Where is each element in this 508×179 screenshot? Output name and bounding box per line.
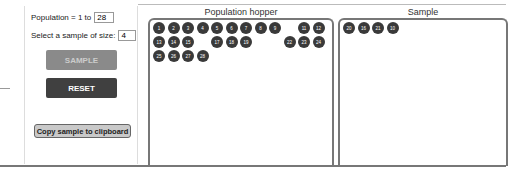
sample-balls: 20162110 [343, 22, 399, 34]
ball: 6 [226, 22, 238, 34]
ball: 22 [284, 36, 296, 48]
sample-size-label: Select a sample of size: [31, 31, 115, 40]
population-hopper: 123456789111213141517181922232425262728 [148, 18, 334, 166]
ball: 2 [168, 22, 180, 34]
sample-button[interactable]: SAMPLE [46, 50, 117, 70]
ball: 15 [182, 36, 194, 48]
ball: 25 [153, 50, 165, 62]
divider [0, 165, 506, 167]
sample-size-input[interactable] [118, 30, 136, 41]
ball: 17 [211, 36, 223, 48]
population-row: Population = 1 to [31, 12, 114, 23]
ball: 26 [168, 50, 180, 62]
ball: 16 [358, 22, 370, 34]
hopper-title: Population hopper [148, 7, 334, 17]
controls-panel: Population = 1 to Select a sample of siz… [24, 6, 138, 164]
sample-area: 20162110 [338, 18, 508, 166]
ball: 24 [313, 36, 325, 48]
ball: 20 [343, 22, 355, 34]
ball: 18 [226, 36, 238, 48]
divider [138, 4, 506, 5]
hopper-balls: 123456789111213141517181922232425262728 [153, 22, 327, 64]
ball: 9 [269, 22, 281, 34]
population-input[interactable] [94, 12, 114, 23]
ball: 1 [153, 22, 165, 34]
ball: 23 [298, 36, 310, 48]
ball: 5 [211, 22, 223, 34]
ball: 14 [168, 36, 180, 48]
ball: 21 [372, 22, 384, 34]
ball: 8 [255, 22, 267, 34]
ball: 27 [182, 50, 194, 62]
ball: 13 [153, 36, 165, 48]
ball: 3 [182, 22, 194, 34]
ball: 10 [387, 22, 399, 34]
divider [0, 88, 10, 89]
sample-size-row: Select a sample of size: [31, 30, 136, 41]
copy-sample-button[interactable]: Copy sample to clipboard [34, 124, 131, 138]
ball: 12 [313, 22, 325, 34]
ball: 19 [240, 36, 252, 48]
ball: 11 [298, 22, 310, 34]
ball: 7 [240, 22, 252, 34]
reset-button[interactable]: RESET [46, 78, 117, 98]
ball: 4 [197, 22, 209, 34]
ball: 28 [197, 50, 209, 62]
population-label: Population = 1 to [31, 13, 91, 22]
sample-title: Sample [338, 7, 508, 17]
